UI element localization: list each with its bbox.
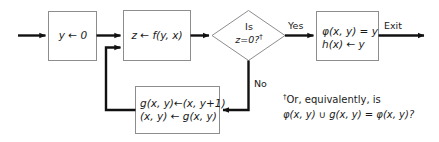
edge-decision-to-increment-no	[223, 61, 249, 111]
decision-line-1: Is	[227, 22, 271, 33]
flowchart-diagram: y ← 0 z ← f(y, x) Is z=0?† φ(x, y) = y h…	[0, 0, 439, 142]
node-label-init: y ← 0	[57, 29, 89, 42]
node-label-increment: g(x, y)←(x, y+1) (x, y) ← g(x, y)	[140, 97, 218, 123]
footnote-line-2: φ(x, y) ∪ g(x, y) = φ(x, y)?	[283, 108, 414, 123]
node-label-compute: z ← f(y, x)	[129, 29, 185, 42]
edge-label-yes: Yes	[288, 20, 303, 32]
edge-label-exit: Exit	[384, 20, 402, 32]
increment-line-1: g(x, y)←(x, y+1)	[140, 97, 218, 110]
decision-dagger-marker: †	[259, 33, 263, 41]
footnote: †Or, equivalently, is φ(x, y) ∪ g(x, y) …	[283, 92, 414, 122]
output-line-1: φ(x, y) = y	[322, 25, 376, 38]
footnote-line-1: †Or, equivalently, is	[283, 92, 414, 108]
edge-label-no: No	[254, 78, 267, 90]
decision-line-2: z=0?†	[227, 33, 271, 46]
node-label-decision: Is z=0?†	[227, 22, 271, 46]
output-line-2: h(x) ← y	[322, 38, 376, 51]
footnote-line-1-text: Or, equivalently, is	[287, 94, 381, 105]
node-label-output: φ(x, y) = y h(x) ← y	[322, 25, 376, 51]
increment-line-2: (x, y) ← g(x, y)	[140, 110, 218, 123]
